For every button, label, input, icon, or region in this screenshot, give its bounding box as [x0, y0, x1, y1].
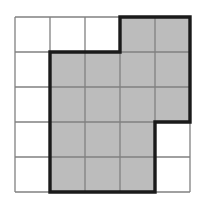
shaded-cell: [50, 157, 85, 192]
shaded-cell: [85, 122, 120, 157]
shaded-cell: [50, 122, 85, 157]
grid-canvas: [0, 0, 204, 205]
shaded-cell: [155, 17, 190, 52]
grid-figure: [0, 0, 204, 205]
shaded-cell: [120, 17, 155, 52]
shaded-cell: [155, 52, 190, 87]
shaded-cell: [155, 87, 190, 122]
shaded-cell: [120, 157, 155, 192]
shaded-cell: [120, 87, 155, 122]
shaded-cell: [50, 87, 85, 122]
shaded-cell: [50, 52, 85, 87]
shaded-cell: [85, 87, 120, 122]
shaded-cell: [120, 122, 155, 157]
shaded-cell: [85, 52, 120, 87]
shaded-cell: [120, 52, 155, 87]
shaded-cell: [85, 157, 120, 192]
